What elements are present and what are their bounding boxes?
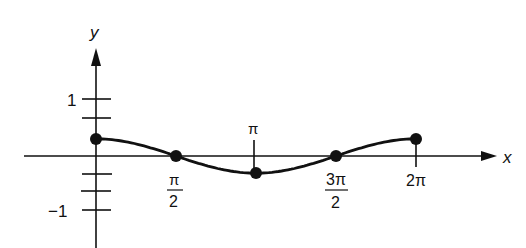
x-tick-label-2pi: 2π bbox=[406, 172, 426, 189]
x-tick-label-pi-half-num: π bbox=[169, 171, 179, 188]
data-point bbox=[250, 167, 262, 179]
y-tick-label-minus-1: −1 bbox=[48, 202, 67, 221]
y-axis-arrow-icon bbox=[91, 48, 101, 66]
x-tick-label-3pi-half-num: 3π bbox=[326, 171, 346, 188]
y-axis-label: y bbox=[89, 23, 100, 42]
x-axis-label: x bbox=[502, 148, 512, 167]
x-tick-label-3pi-half-den: 2 bbox=[331, 194, 340, 211]
x-tick-label-pi: π bbox=[248, 120, 258, 137]
x-axis-arrow-icon bbox=[481, 151, 497, 161]
cosine-graph: x y 1 −1 π 2 π 3π 2 2π bbox=[0, 0, 526, 248]
data-point bbox=[410, 133, 422, 145]
data-point bbox=[90, 133, 102, 145]
x-tick-label-pi-half-den: 2 bbox=[169, 193, 178, 210]
y-tick-label-1: 1 bbox=[67, 91, 76, 110]
data-point bbox=[170, 150, 182, 162]
data-point bbox=[330, 150, 342, 162]
